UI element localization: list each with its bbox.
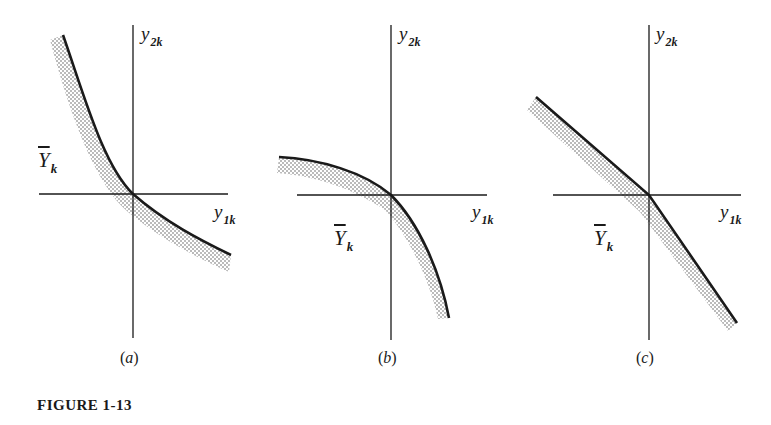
panel-a-set-label: Yk — [38, 150, 57, 175]
panel-c-x-axis-label: y1k — [720, 202, 741, 226]
figure-caption: FIGURE 1-13 — [37, 397, 132, 414]
panel-b — [277, 25, 487, 340]
panel-a-shaded-band — [50, 35, 231, 272]
panel-b-y-axis-label: y2k — [399, 24, 420, 48]
panel-c-shaded-band — [527, 97, 737, 331]
panel-a-label: (a) — [120, 350, 139, 366]
panel-c-label: (c) — [636, 350, 654, 366]
panel-b-set-label: Yk — [334, 228, 353, 253]
panel-c-y-axis-label: y2k — [656, 24, 677, 48]
panel-a — [39, 25, 231, 338]
panel-b-x-axis-label: y1k — [472, 202, 493, 226]
panel-b-label: (b) — [378, 350, 397, 366]
panel-c — [527, 25, 741, 340]
panel-a-y-axis-label: y2k — [141, 24, 162, 48]
panel-c-set-label: Yk — [594, 228, 613, 253]
panel-a-x-axis-label: y1k — [214, 202, 235, 226]
panel-b-shaded-band — [277, 157, 449, 319]
